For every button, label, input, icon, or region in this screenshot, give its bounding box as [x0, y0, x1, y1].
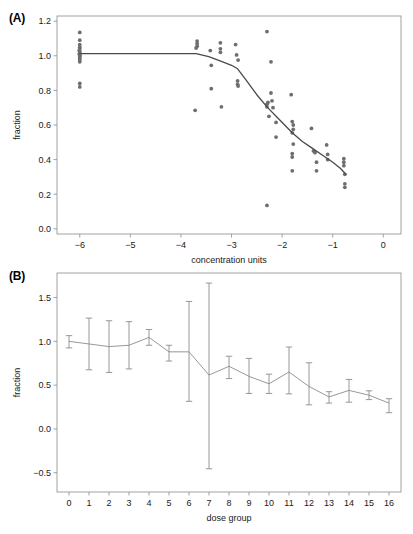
data-point	[326, 153, 330, 157]
x-tick-label-b: 5	[166, 498, 171, 508]
x-tick-label-b: 3	[126, 498, 131, 508]
data-point	[265, 204, 269, 208]
scatter-plot-a: −6−5−4−3−2−100.00.20.40.60.81.01.2concen…	[0, 0, 413, 267]
x-tick-label-a: −5	[125, 240, 135, 250]
error-bar	[386, 399, 392, 413]
y-tick-label-a: 1.2	[38, 16, 51, 26]
error-bar	[306, 363, 312, 405]
data-point	[291, 142, 295, 146]
data-point	[78, 60, 82, 64]
data-point	[289, 93, 293, 97]
error-bar	[206, 283, 212, 469]
data-point	[342, 160, 346, 164]
x-tick-label-b: 16	[384, 498, 394, 508]
data-point	[236, 79, 240, 83]
data-point	[274, 121, 278, 125]
data-point	[267, 114, 271, 118]
y-tick-label-a: 0.2	[38, 190, 51, 200]
data-point	[209, 63, 213, 67]
x-tick-label-b: 13	[324, 498, 334, 508]
data-point	[78, 38, 82, 42]
data-point	[77, 49, 81, 53]
y-tick-label-a: 0.0	[38, 224, 51, 234]
x-tick-label-b: 14	[344, 498, 354, 508]
data-point	[269, 91, 273, 95]
panel-a-label: (A)	[9, 11, 25, 25]
x-tick-label-b: 10	[264, 498, 274, 508]
error-bar	[146, 330, 152, 346]
data-point	[291, 123, 295, 127]
panel-b-label: (B)	[9, 269, 25, 283]
y-tick-label-b: 1.5	[38, 293, 51, 303]
data-point	[343, 182, 347, 186]
x-axis-title-a: concentration units	[191, 255, 267, 265]
panel-a: (A) −6−5−4−3−2−100.00.20.40.60.81.01.2co…	[0, 0, 413, 267]
data-point	[325, 143, 329, 147]
data-point	[315, 160, 319, 164]
data-point	[290, 169, 294, 173]
x-tick-label-a: −6	[75, 240, 85, 250]
data-point	[290, 155, 294, 159]
errorbar-plot-b: 012345678910111213141516−0.50.00.51.01.5…	[0, 267, 413, 534]
data-point	[310, 127, 314, 131]
x-tick-label-b: 7	[206, 498, 211, 508]
data-point	[194, 46, 198, 50]
panel-b: (B) 012345678910111213141516−0.50.00.51.…	[0, 267, 413, 534]
data-point	[343, 185, 347, 189]
error-bar	[366, 391, 372, 400]
x-tick-label-b: 11	[284, 498, 293, 508]
x-tick-label-a: 0	[381, 240, 386, 250]
error-bar	[266, 374, 272, 393]
data-point	[342, 164, 346, 168]
error-bar	[166, 345, 172, 361]
data-point	[78, 31, 82, 35]
data-point	[220, 105, 224, 109]
data-point	[78, 85, 82, 89]
data-point	[208, 49, 212, 53]
data-point	[290, 152, 294, 156]
x-tick-label-b: 15	[364, 498, 374, 508]
error-bar	[286, 347, 292, 394]
x-tick-label-b: 4	[146, 498, 151, 508]
x-tick-label-b: 1	[86, 498, 91, 508]
data-point	[219, 50, 223, 54]
data-point	[209, 87, 213, 91]
fitted-curve-a	[80, 54, 346, 175]
data-point	[236, 84, 240, 88]
data-point	[290, 120, 294, 124]
data-point	[270, 99, 274, 103]
data-point	[265, 30, 269, 34]
x-tick-label-b: 9	[246, 498, 251, 508]
x-tick-label-b: 2	[106, 498, 111, 508]
x-tick-label-b: 12	[304, 498, 314, 508]
y-tick-label-b: 0.5	[38, 380, 51, 390]
x-tick-label-b: 6	[186, 498, 191, 508]
data-point	[78, 82, 82, 86]
data-point	[235, 53, 239, 57]
y-tick-label-a: 1.0	[38, 51, 51, 61]
x-axis-title-b: dose group	[206, 513, 251, 523]
x-tick-label-a: −1	[328, 240, 338, 250]
y-axis-title-a: fraction	[12, 110, 22, 140]
y-axis-title-b: fraction	[12, 368, 22, 398]
data-point	[236, 58, 240, 62]
data-point	[193, 108, 197, 112]
y-tick-label-a: 0.6	[38, 120, 51, 130]
data-point	[219, 47, 223, 51]
data-point	[266, 101, 270, 105]
data-point	[291, 127, 295, 131]
data-point	[269, 60, 273, 64]
data-point	[274, 135, 278, 139]
error-bars-b	[66, 283, 392, 469]
y-tick-label-b: 0.0	[38, 424, 51, 434]
y-tick-label-b: 1.0	[38, 337, 51, 347]
data-point	[315, 169, 319, 173]
data-point	[271, 106, 275, 110]
x-tick-label-a: −4	[176, 240, 186, 250]
y-tick-label-b: −0.5	[33, 468, 51, 478]
x-tick-label-a: −2	[277, 240, 287, 250]
error-bar	[246, 358, 252, 393]
data-point	[219, 41, 223, 45]
x-tick-label-a: −3	[226, 240, 236, 250]
y-tick-label-a: 0.8	[38, 86, 51, 96]
